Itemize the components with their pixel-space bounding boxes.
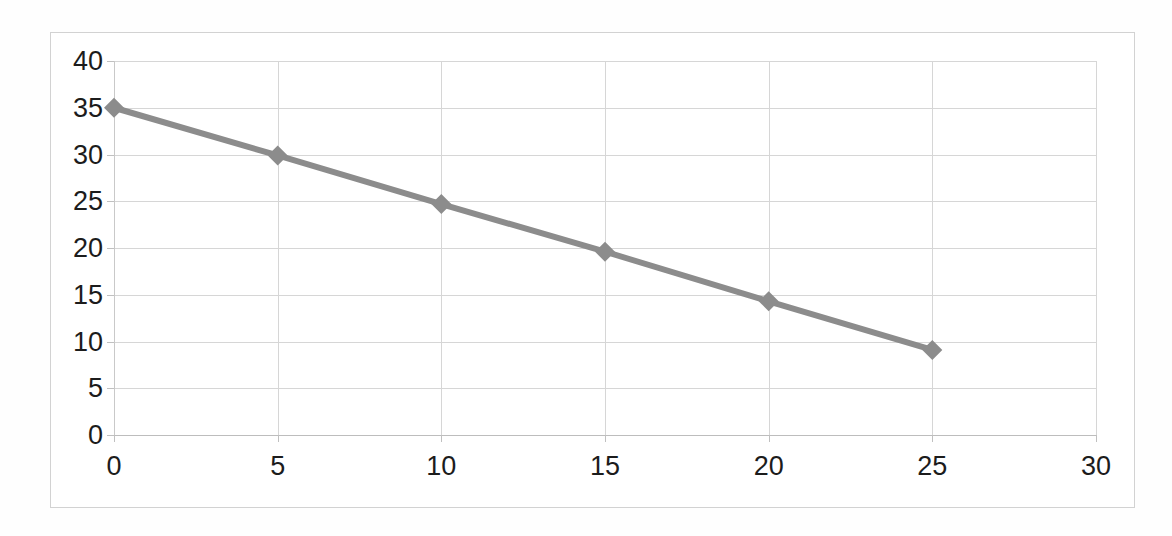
- x-tick-30: [1096, 435, 1097, 442]
- y-tick-10: [107, 342, 114, 343]
- data-point-marker: [104, 98, 124, 118]
- y-axis-tick-labels: 0510152025303540: [51, 61, 103, 435]
- y-tick-label-15: 15: [73, 281, 103, 308]
- x-tick-label-30: 30: [1081, 453, 1111, 480]
- x-tick-label-0: 0: [106, 453, 121, 480]
- y-tick-30: [107, 155, 114, 156]
- y-tick-label-0: 0: [88, 422, 103, 449]
- y-tick-label-30: 30: [73, 141, 103, 168]
- chart-frame: 0510152025303540 051015202530: [50, 32, 1135, 508]
- x-axis-tick-labels: 051015202530: [114, 453, 1096, 493]
- x-tick-label-25: 25: [917, 453, 947, 480]
- y-tick-label-25: 25: [73, 188, 103, 215]
- y-tick-20: [107, 248, 114, 249]
- y-tick-5: [107, 388, 114, 389]
- scanned-page: 0510152025303540 051015202530: [0, 0, 1172, 536]
- data-point-marker: [595, 242, 615, 262]
- y-tick-label-40: 40: [73, 48, 103, 75]
- y-tick-25: [107, 201, 114, 202]
- x-tick-10: [441, 435, 442, 442]
- y-tick-label-35: 35: [73, 94, 103, 121]
- data-point-marker: [431, 194, 451, 214]
- plot-area: [114, 61, 1096, 435]
- x-tick-label-5: 5: [270, 453, 285, 480]
- x-tick-5: [278, 435, 279, 442]
- line-series: [114, 61, 1096, 435]
- y-tick-label-5: 5: [88, 375, 103, 402]
- x-tick-label-10: 10: [426, 453, 456, 480]
- x-tick-15: [605, 435, 606, 442]
- series-line-0: [114, 108, 932, 350]
- y-tick-40: [107, 61, 114, 62]
- data-point-marker: [268, 145, 288, 165]
- x-tick-20: [769, 435, 770, 442]
- x-tick-label-20: 20: [754, 453, 784, 480]
- gridline-x-30: [1096, 61, 1097, 435]
- y-tick-0: [107, 435, 114, 436]
- x-tick-label-15: 15: [590, 453, 620, 480]
- data-point-marker: [759, 291, 779, 311]
- y-tick-label-10: 10: [73, 328, 103, 355]
- y-tick-label-20: 20: [73, 235, 103, 262]
- y-tick-15: [107, 295, 114, 296]
- x-tick-25: [932, 435, 933, 442]
- data-point-marker: [922, 340, 942, 360]
- x-tick-0: [114, 435, 115, 442]
